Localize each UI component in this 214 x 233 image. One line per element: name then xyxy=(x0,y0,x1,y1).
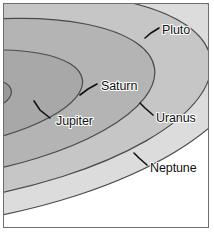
orbit-label-uranus: Uranus xyxy=(156,111,196,125)
orbit-label-pluto: Pluto xyxy=(162,23,190,37)
orbit-label-jupiter: Jupiter xyxy=(56,114,93,128)
orbit-diagram-figure: JupiterSaturnUranusNeptunePluto xyxy=(0,0,214,233)
orbit-label-saturn: Saturn xyxy=(101,79,137,93)
orbit-label-neptune: Neptune xyxy=(150,161,197,175)
orbit-canvas: JupiterSaturnUranusNeptunePluto xyxy=(4,4,208,227)
diagram-frame: JupiterSaturnUranusNeptunePluto xyxy=(3,3,209,228)
